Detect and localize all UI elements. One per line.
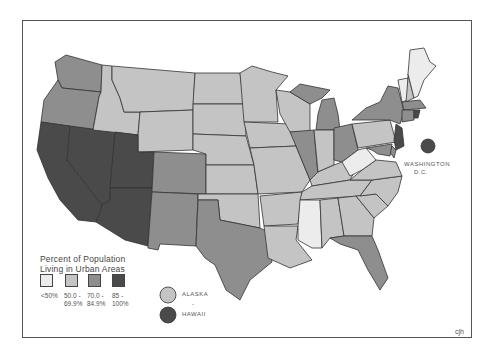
state-MT [112,66,195,112]
legend-title-line1: Percent of Population [40,254,125,264]
state-IN [314,130,334,172]
legend-label-70-85-line2: 84.9% [87,300,105,308]
inset-separator: - [192,301,195,307]
legend-label-50-70: 50.0 - 69.9% [64,292,82,307]
legend-swatch-under-50 [40,274,53,287]
legend-title: Percent of Population Living in Urban Ar… [40,254,125,274]
state-ME [408,48,436,98]
state-RI [414,110,420,118]
legend-label-70-85-line1: 70.0 - [87,292,105,300]
legend-label-50-70-line1: 50.0 - [64,292,82,300]
hawaii-marker [160,307,176,323]
legend-label-70-85: 70.0 - 84.9% [87,292,105,307]
legend-swatch-70-85 [88,274,101,287]
legend-label-85-100: 85 - 100% [112,292,129,307]
state-MS [298,200,322,248]
legend-title-line2: Living in Urban Areas [40,264,125,274]
state-WA [55,55,102,92]
state-PA [352,120,396,148]
alaska-label: ALASKA [182,291,208,297]
dc-label-line2: D.C. [414,169,428,175]
state-NY [352,86,404,124]
state-MI-lower [316,98,340,130]
legend-label-under-50: <50% [41,292,58,300]
credit-initials: cjh [455,328,464,335]
state-AR [260,192,302,226]
state-KS [206,165,258,194]
alaska-marker [160,287,176,303]
legend-swatch-50-70 [65,274,78,287]
dc-marker [421,139,435,153]
legend-swatch-85-100 [112,274,125,287]
state-CT [402,110,414,122]
state-SD [193,104,246,136]
legend-label-under-50-line1: <50% [41,292,58,300]
state-MA [402,100,426,110]
state-FL [330,236,388,290]
legend-label-50-70-line2: 69.9% [64,300,82,308]
state-WY [138,110,193,152]
hawaii-label: HAWAII [182,311,206,317]
state-ND [193,73,244,104]
state-NM [148,192,198,250]
dc-label-line1: WASHINGTON [404,161,450,167]
state-NJ [394,124,404,150]
legend-label-85-100-line2: 100% [112,300,129,308]
state-CO [152,152,206,194]
legend-label-85-100-line1: 85 - [112,292,129,300]
